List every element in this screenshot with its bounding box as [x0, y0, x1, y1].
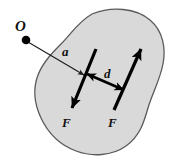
rigid-body-outline	[35, 9, 164, 155]
label-force-left: F	[61, 115, 71, 130]
physics-figure: O a d F F	[0, 0, 172, 164]
label-vector-a: a	[62, 44, 69, 59]
label-force-right: F	[107, 115, 117, 130]
point-o-dot	[22, 36, 31, 45]
figure-canvas: O a d F F	[0, 0, 172, 164]
label-point-o: O	[15, 18, 26, 34]
label-distance-d: d	[104, 66, 111, 81]
